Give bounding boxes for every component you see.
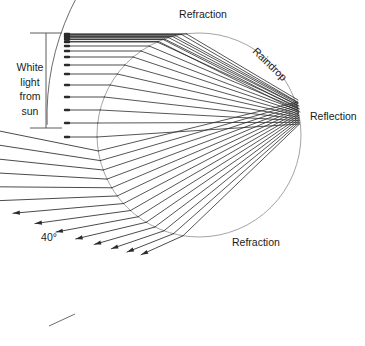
white-light-line: White <box>17 61 44 73</box>
internal-reflected-chord <box>98 102 297 151</box>
white-light-line: light <box>20 76 39 88</box>
label-refraction-top: Refraction <box>179 8 227 20</box>
angle-arc <box>47 0 144 125</box>
emergent-ray-arrowhead <box>94 241 101 245</box>
emergent-ray <box>0 196 117 201</box>
label-raindrop: Raindrop <box>251 45 290 83</box>
emergent-ray <box>111 231 164 249</box>
internal-reflected-chord <box>146 117 299 222</box>
internal-reflected-chord <box>117 110 298 195</box>
emergent-ray <box>0 187 112 188</box>
emergent-ray <box>0 170 107 179</box>
emergent-ray-arrowhead <box>141 250 148 255</box>
emergent-ray-arrowhead <box>76 235 83 239</box>
internal-reflected-chord <box>155 119 299 227</box>
emergent-ray <box>13 204 124 214</box>
forty-degree-arc <box>47 0 144 326</box>
emergent-ray <box>35 211 131 224</box>
label-reflection: Reflection <box>310 110 357 122</box>
internal-reflected-chord <box>130 114 298 211</box>
emergent-ray <box>0 129 100 161</box>
internal-reflected-chord <box>107 107 298 179</box>
white-light-line: from <box>20 90 41 102</box>
light-rays-group <box>0 34 300 255</box>
emergent-ray <box>94 227 155 244</box>
rainbow-ray-diagram: Refraction Raindrop Reflection Refractio… <box>0 0 365 346</box>
emergent-ray-arrowhead <box>127 248 134 253</box>
emergent-ray-arrowhead <box>13 211 20 215</box>
diagram-canvas: Refraction Raindrop Reflection Refractio… <box>0 0 365 346</box>
emergent-ray-arrowhead <box>111 245 118 249</box>
angle-arc-end-tick <box>49 314 75 326</box>
emergent-ray <box>76 222 147 239</box>
white-light-line: sun <box>22 105 39 117</box>
label-refraction-bottom: Refraction <box>232 236 280 248</box>
label-white-light-from-sun: Whitelightfromsun <box>17 61 44 117</box>
internal-reflected-chord <box>173 122 299 233</box>
emergent-ray-arrowhead <box>35 221 42 225</box>
refracted-chord <box>98 122 300 123</box>
internal-reflected-chord <box>183 124 299 236</box>
label-angle-forty-degrees: 40° <box>41 231 57 243</box>
